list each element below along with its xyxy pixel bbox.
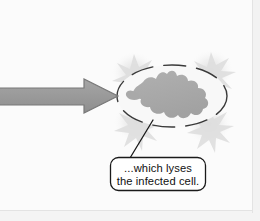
callout-line-2: the infected cell. xyxy=(117,175,200,187)
edge-shadow-bottom xyxy=(0,210,260,221)
figure-canvas: ...which lyses the infected cell. xyxy=(0,0,260,221)
figure-svg: ...which lyses the infected cell. xyxy=(0,0,260,221)
edge-shadow-right xyxy=(252,0,260,221)
callout-line-1: ...which lyses xyxy=(124,162,192,174)
